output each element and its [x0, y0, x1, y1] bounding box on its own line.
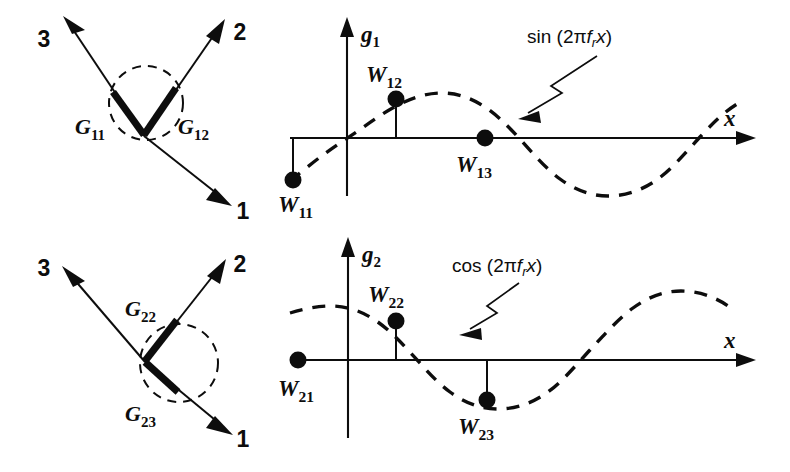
axis-label-3: 3 — [38, 26, 51, 52]
component-wedge-g12 — [144, 88, 176, 135]
arrowhead-3 — [63, 16, 85, 34]
y-axis-label-cosine: g2 — [361, 242, 381, 270]
axis-label-2: 2 — [234, 19, 247, 45]
component-label-g23: G23 — [125, 401, 156, 430]
cosine-curve — [290, 291, 731, 409]
sine-basis-plot: W11 W12 W13 sin (2πfrx) g1 x — [278, 17, 756, 221]
x-axis-arrowhead-cosine — [736, 353, 756, 367]
arrowhead-1-b — [206, 416, 233, 435]
sine-curve — [290, 93, 737, 196]
sample-point-w22 — [388, 313, 405, 330]
sample-point-w13 — [477, 130, 494, 147]
gradient-vector-diagram-2: 3 2 1 G22 G23 — [38, 251, 250, 452]
y-axis-label-sine: g1 — [360, 22, 380, 50]
sample-label-w11: W11 — [278, 192, 313, 221]
sample-label-w22: W22 — [368, 282, 404, 311]
sample-point-w12 — [388, 91, 405, 108]
sample-label-w13: W13 — [456, 152, 492, 181]
component-wedge-g23 — [145, 362, 178, 392]
axis-label-3-b: 3 — [38, 255, 51, 281]
component-wedge-g11 — [113, 92, 144, 135]
figure-canvas: 3 2 1 G11 G12 3 2 1 G22 G23 — [0, 0, 790, 472]
figure-root: 3 2 1 G11 G12 3 2 1 G22 G23 — [0, 0, 790, 472]
axis-label-1-b: 1 — [237, 426, 250, 452]
x-axis-arrowhead-sine — [736, 131, 756, 145]
curve-callout-leader-cosine — [470, 283, 519, 329]
curve-label-cosine: cos (2πfrx) — [452, 255, 542, 279]
axis-ray-1 — [144, 136, 220, 196]
sample-label-w21: W21 — [278, 376, 314, 405]
axis-label-2-b: 2 — [234, 251, 247, 277]
y-axis-arrowhead-sine — [340, 17, 354, 37]
component-label-g11: G11 — [75, 114, 105, 143]
axis-label-1: 1 — [237, 198, 250, 224]
cosine-basis-plot: W21 W22 W23 cos (2πfrx) g2 x — [278, 237, 756, 443]
sample-label-w23: W23 — [458, 414, 494, 443]
y-axis-arrowhead-cosine — [341, 237, 355, 257]
arrowhead-1 — [206, 188, 232, 206]
arrowhead-2 — [206, 19, 225, 44]
component-label-g12: G12 — [178, 114, 209, 143]
arrowhead-3-b — [62, 266, 85, 287]
x-axis-label-cosine: x — [723, 328, 736, 353]
curve-label-sine: sin (2πfrx) — [527, 26, 612, 50]
component-wedge-g22 — [145, 320, 177, 361]
component-label-g22: G22 — [125, 296, 156, 325]
curve-callout-arrowhead-cosine — [459, 328, 482, 340]
curve-callout-leader-sine — [528, 56, 597, 113]
x-axis-label-sine: x — [723, 106, 736, 131]
gradient-vector-diagram-1: 3 2 1 G11 G12 — [38, 16, 250, 224]
sample-point-w21 — [290, 352, 307, 369]
sample-label-w12: W12 — [366, 62, 402, 91]
sample-point-w23 — [479, 392, 496, 409]
sample-point-w11 — [285, 172, 302, 189]
